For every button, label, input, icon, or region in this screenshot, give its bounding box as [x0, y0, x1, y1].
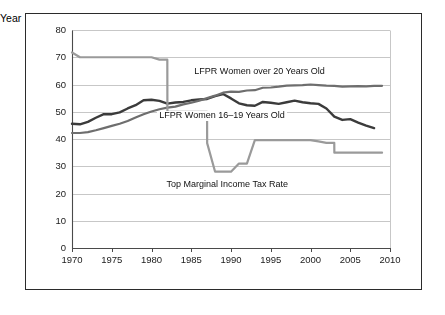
x-tick-label: 2010	[373, 255, 407, 265]
x-tick-label: 1980	[135, 255, 169, 265]
y-tick-label: 0	[40, 243, 66, 253]
y-tick-label: 10	[40, 216, 66, 226]
y-tick-label: 20	[40, 189, 66, 199]
x-tick-label: 2000	[294, 255, 328, 265]
x-tick-label: 1990	[214, 255, 248, 265]
x-tick-label: 1975	[95, 255, 129, 265]
series-label-2: LFPR Women over 20 Years Old	[192, 67, 326, 77]
x-tick-label: 1985	[174, 255, 208, 265]
y-tick-label: 50	[40, 107, 66, 117]
line-chart-plot	[0, 0, 445, 315]
y-tick-label: 40	[40, 134, 66, 144]
y-tick-label: 80	[40, 25, 66, 35]
y-tick-label: 70	[40, 52, 66, 62]
x-tick-label: 1970	[55, 255, 89, 265]
series-label-3: Top Marginal Income Tax Rate	[165, 180, 290, 190]
x-tick-label: 2005	[333, 255, 367, 265]
series-label-1: LFPR Women 16–19 Years Old	[157, 111, 286, 121]
y-tick-label: 60	[40, 80, 66, 90]
x-tick-label: 1995	[254, 255, 288, 265]
y-tick-label: 30	[40, 161, 66, 171]
